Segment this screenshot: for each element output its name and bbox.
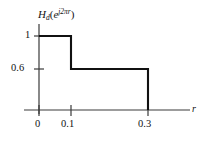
axis-title-close-paren: ) xyxy=(71,8,75,20)
axis-title: Hd(ej2πr) xyxy=(38,8,74,21)
y-tick-label-1: 1 xyxy=(25,30,30,41)
figure-step-response: Hd(ej2πr) 1 0.6 0 0.1 0.3 r xyxy=(0,0,211,142)
x-tick-label-0.1: 0.1 xyxy=(61,119,74,130)
y-tick-label-0.6: 0.6 xyxy=(11,63,24,74)
x-axis-variable-label: r xyxy=(192,104,196,114)
x-tick-label-0.3: 0.3 xyxy=(138,119,151,130)
plot-area: Hd(ej2πr) 1 0.6 0 0.1 0.3 r xyxy=(0,0,211,142)
step-response-curve xyxy=(39,36,148,110)
x-tick-label-0: 0 xyxy=(35,119,40,130)
plot-canvas xyxy=(0,0,211,142)
axis-title-exponent: j2πr xyxy=(58,7,71,16)
axis-title-base: H xyxy=(38,8,46,20)
